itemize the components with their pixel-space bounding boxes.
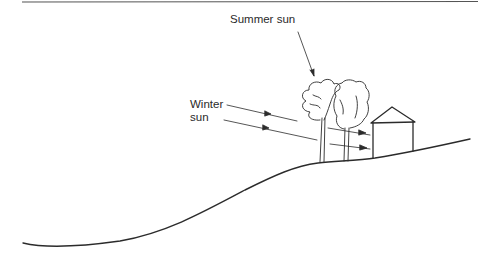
- summer-sun-ray: [298, 32, 314, 76]
- winter-sun-label-line2: sun: [190, 111, 209, 123]
- winter-sun-label-line1: Winter: [190, 98, 223, 110]
- summer-sun-label: Summer sun: [230, 13, 295, 25]
- tree-right-trunk: [344, 128, 349, 161]
- tree-left-trunk: [320, 118, 325, 162]
- house: [371, 107, 415, 158]
- arrow-head: [360, 145, 367, 150]
- solar-shading-diagram: Summer sun Winter sun: [0, 0, 491, 264]
- arrow-head: [310, 69, 314, 76]
- house-roof: [371, 107, 415, 123]
- tree-right-canopy: [334, 80, 369, 129]
- top-rule: [22, 2, 478, 3]
- hillside: [23, 139, 470, 246]
